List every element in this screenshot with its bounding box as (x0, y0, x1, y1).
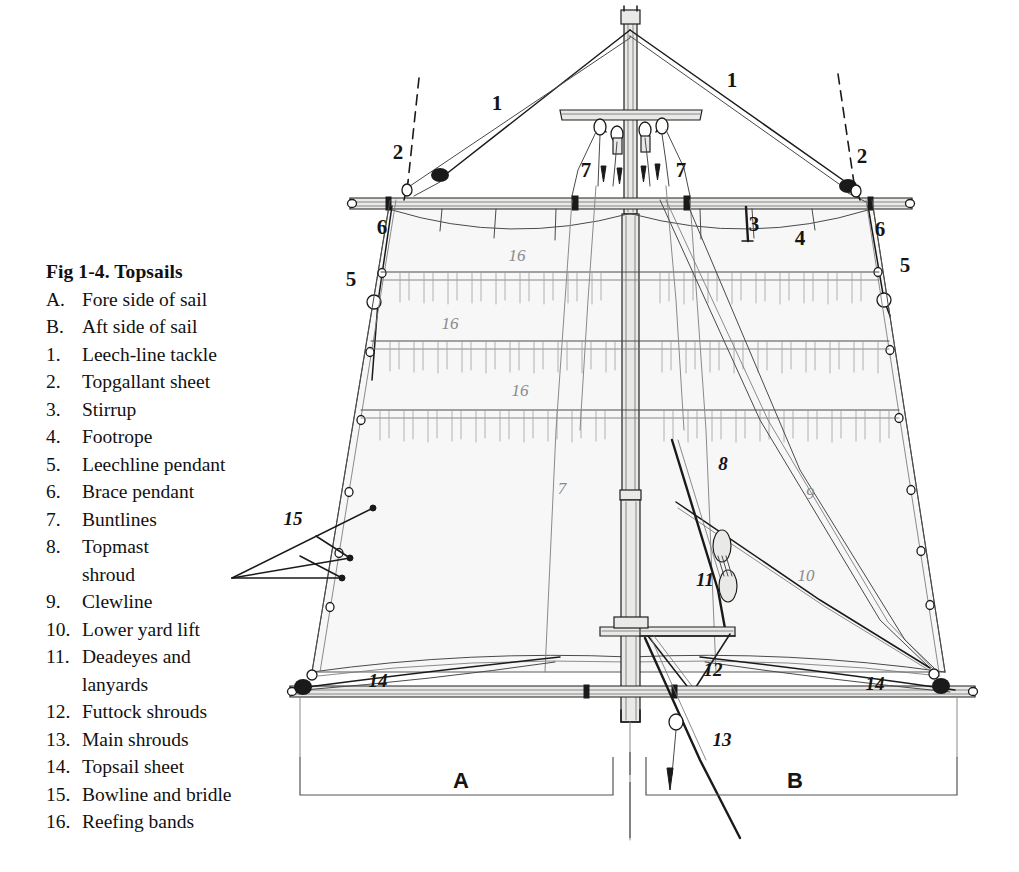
callout-number: 10 (798, 566, 815, 586)
callout-number: 4 (795, 226, 806, 251)
callout-number: B (787, 768, 803, 794)
figure-title: Fig 1-4. Topsails (46, 258, 308, 286)
legend-item-label: Topgallant sheet (82, 368, 308, 396)
legend-item-label: Stirrup (82, 396, 308, 424)
legend-item-label: Leech-line tackle (82, 341, 308, 369)
legend-item-label: Aft side of sail (82, 313, 308, 341)
legend-item-marker: 3. (46, 396, 82, 424)
legend-item-marker: 9. (46, 588, 82, 616)
legend-item: 13.Main shrouds (46, 726, 308, 754)
legend-item: 15.Bowline and bridle (46, 781, 308, 809)
callout-number: A (453, 768, 469, 794)
legend-item: 12.Futtock shrouds (46, 698, 308, 726)
legend-item: 16.Reefing bands (46, 808, 308, 836)
legend-item-marker: 4. (46, 423, 82, 451)
legend-item: 2.Topgallant sheet (46, 368, 308, 396)
legend-item: 6.Brace pendant (46, 478, 308, 506)
callout-number: 1 (727, 68, 738, 93)
legend-item-label: Footrope (82, 423, 308, 451)
legend-item-label: Leechline pendant (82, 451, 308, 479)
legend-item-label: Topsail sheet (82, 753, 308, 781)
legend-item-marker: 16. (46, 808, 82, 836)
legend-item: 7.Buntlines (46, 506, 308, 534)
callout-number: 16 (442, 314, 459, 334)
legend-item-label: Bowline and bridle (82, 781, 308, 809)
callout-number: 6 (377, 215, 388, 240)
legend-item-marker: 6. (46, 478, 82, 506)
legend-item: B.Aft side of sail (46, 313, 308, 341)
legend-item-marker: 5. (46, 451, 82, 479)
callout-number: 5 (900, 253, 911, 278)
legend-item: 9.Clewline (46, 588, 308, 616)
callout-number: 2 (857, 144, 868, 169)
callout-number: 7 (676, 158, 687, 183)
callout-number: 14 (866, 673, 885, 695)
legend-item: 5.Leechline pendant (46, 451, 308, 479)
legend-item-label: shroud (82, 561, 308, 589)
legend-item: A.Fore side of sail (46, 286, 308, 314)
callout-number: 13 (713, 729, 732, 751)
legend-item: lanyards (46, 671, 308, 699)
callout-number: 7 (558, 479, 567, 499)
callout-number: 9 (806, 484, 815, 504)
callout-number: 3 (749, 212, 760, 237)
legend-list: A.Fore side of sailB.Aft side of sail1.L… (46, 286, 308, 836)
callout-number: 14 (369, 670, 388, 692)
legend-item-marker: 2. (46, 368, 82, 396)
callout-number: 1 (492, 91, 503, 116)
callout-number: 12 (704, 659, 723, 681)
legend-item-label: Futtock shrouds (82, 698, 308, 726)
legend-item-marker: 7. (46, 506, 82, 534)
legend-item: 3.Stirrup (46, 396, 308, 424)
callout-number: 16 (512, 381, 529, 401)
legend-item-marker: 8. (46, 533, 82, 561)
callout-number: 16 (509, 246, 526, 266)
legend-item-label: Deadeyes and (82, 643, 308, 671)
legend-item-label: Clewline (82, 588, 308, 616)
legend-item: 11.Deadeyes and (46, 643, 308, 671)
legend-item-marker: A. (46, 286, 82, 314)
legend-item-marker: 14. (46, 753, 82, 781)
legend-item-marker: 12. (46, 698, 82, 726)
legend-item-marker: 1. (46, 341, 82, 369)
legend-item-marker: 10. (46, 616, 82, 644)
callout-number: 5 (346, 267, 357, 292)
legend-item: 1.Leech-line tackle (46, 341, 308, 369)
legend-item: 14.Topsail sheet (46, 753, 308, 781)
legend-item: 10.Lower yard lift (46, 616, 308, 644)
legend-item: 8.Topmast (46, 533, 308, 561)
legend-item-label: Fore side of sail (82, 286, 308, 314)
legend-item-marker: 13. (46, 726, 82, 754)
callout-number: 11 (696, 569, 714, 591)
callout-number: 7 (581, 158, 592, 183)
legend-item-label: Lower yard lift (82, 616, 308, 644)
legend-item-label: Main shrouds (82, 726, 308, 754)
legend-item-label: Topmast (82, 533, 308, 561)
legend-item-label: lanyards (82, 671, 308, 699)
legend-item-label: Brace pendant (82, 478, 308, 506)
legend-item-marker: 11. (46, 643, 82, 671)
callout-number: 2 (393, 140, 404, 165)
legend-item-marker: B. (46, 313, 82, 341)
legend-item-label: Reefing bands (82, 808, 308, 836)
legend-item-marker: 15. (46, 781, 82, 809)
legend-item: 4.Footrope (46, 423, 308, 451)
callout-number: 8 (718, 453, 728, 475)
legend-item: shroud (46, 561, 308, 589)
callout-number: 6 (875, 217, 886, 242)
legend-item-label: Buntlines (82, 506, 308, 534)
figure-legend: Fig 1-4. Topsails A.Fore side of sailB.A… (46, 258, 308, 836)
